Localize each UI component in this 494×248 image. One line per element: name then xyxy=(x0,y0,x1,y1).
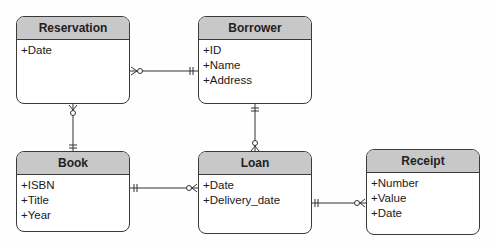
entity-receipt[interactable]: Receipt +Number +Value +Date xyxy=(366,149,480,235)
attribute: +ISBN xyxy=(21,178,129,193)
entity-book[interactable]: Book +ISBN +Title +Year xyxy=(16,151,130,232)
attribute: +Date xyxy=(371,206,479,221)
entity-title: Loan xyxy=(199,152,311,175)
attribute: +Delivery_date xyxy=(203,193,311,208)
entity-title: Borrower xyxy=(199,17,311,40)
relationship-loan-receipt xyxy=(312,199,366,207)
attribute-list: +ISBN +Title +Year xyxy=(17,175,129,223)
entity-title: Receipt xyxy=(367,150,479,173)
entity-reservation[interactable]: Reservation +Date xyxy=(16,16,130,104)
attribute: +Name xyxy=(203,58,311,73)
attribute: +Number xyxy=(371,176,479,191)
entity-borrower[interactable]: Borrower +ID +Name +Address xyxy=(198,16,312,104)
attribute: +Title xyxy=(21,193,129,208)
relationship-borrower-loan xyxy=(251,104,259,151)
attribute: +Address xyxy=(203,73,311,88)
attribute-list: +Number +Value +Date xyxy=(367,173,479,221)
attribute: +Year xyxy=(21,208,129,223)
entity-title: Reservation xyxy=(17,17,129,40)
attribute: +Value xyxy=(371,191,479,206)
entity-title: Book xyxy=(17,152,129,175)
attribute: +Date xyxy=(21,43,129,58)
attribute: +ID xyxy=(203,43,311,58)
entity-loan[interactable]: Loan +Date +Delivery_date xyxy=(198,151,312,234)
attribute-list: +Date xyxy=(17,40,129,58)
attribute: +Date xyxy=(203,178,311,193)
relationship-reservation-borrower xyxy=(130,67,198,75)
attribute-list: +Date +Delivery_date xyxy=(199,175,311,208)
relationship-reservation-book xyxy=(69,104,77,151)
relationship-book-loan xyxy=(130,184,198,192)
attribute-list: +ID +Name +Address xyxy=(199,40,311,88)
